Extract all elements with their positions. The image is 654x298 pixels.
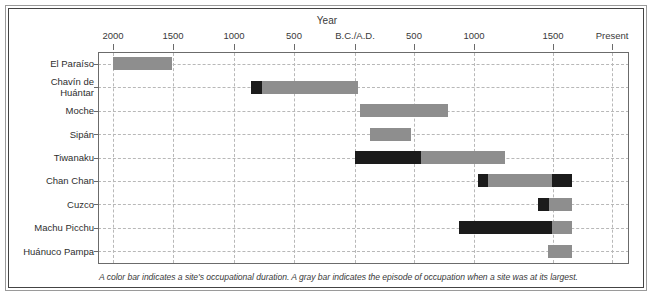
bar-segment	[549, 198, 572, 211]
x-tick-label-0: 2000	[102, 30, 123, 41]
gridline-horizontal-0	[98, 64, 629, 65]
bar-segment	[360, 104, 448, 117]
gridline-horizontal-3	[98, 134, 629, 135]
y-tick-mark-5	[94, 181, 99, 182]
bar-segment	[548, 245, 572, 258]
chart-title: Year	[0, 15, 654, 26]
bar-segment	[552, 221, 572, 234]
x-tick-mark-6	[474, 44, 475, 50]
category-label-text: Sipán	[2, 129, 94, 140]
y-tick-mark-8	[94, 251, 99, 252]
gridline-horizontal-1	[98, 87, 629, 88]
x-tick-mark-3	[294, 44, 295, 50]
category-label-text: El Paraíso	[2, 58, 94, 69]
bar-segment	[478, 174, 488, 187]
bar-segment	[251, 81, 262, 94]
x-tick-label-8: Present	[596, 30, 629, 41]
x-tick-mark-2	[234, 44, 235, 50]
x-tick-mark-7	[553, 44, 554, 50]
category-label-text: Tiwanaku	[2, 152, 94, 163]
category-label-text: Cuzco	[2, 199, 94, 210]
bar-segment	[262, 81, 358, 94]
axis-bottom	[98, 263, 629, 264]
bar-segment	[355, 151, 421, 164]
category-label-text: Chavín deHuántar	[2, 76, 94, 98]
y-tick-mark-7	[94, 228, 99, 229]
bar-segment	[538, 198, 549, 211]
y-tick-mark-6	[94, 204, 99, 205]
y-tick-mark-0	[94, 64, 99, 65]
x-tick-mark-8	[612, 44, 613, 50]
bar-segment	[113, 57, 172, 70]
x-tick-label-1: 1500	[162, 30, 183, 41]
bar-segment	[459, 221, 552, 234]
bar-segment	[421, 151, 505, 164]
y-tick-mark-2	[94, 111, 99, 112]
chart-footnote: A color bar indicates a site's occupatio…	[99, 272, 578, 282]
x-tick-label-6: 1000	[463, 30, 484, 41]
bar-segment	[552, 174, 572, 187]
plot-area: Year 200015001000500B.C./A.D.50010001500…	[0, 0, 654, 298]
category-label-text: Moche	[2, 105, 94, 116]
category-label-text: Machu Picchu	[2, 222, 94, 233]
x-tick-mark-1	[173, 44, 174, 50]
x-tick-label-5: 500	[406, 30, 422, 41]
y-tick-mark-1	[94, 87, 99, 88]
bar-segment	[370, 128, 411, 141]
y-tick-mark-3	[94, 134, 99, 135]
bar-segment	[488, 174, 552, 187]
category-label-text: Chan Chan	[2, 175, 94, 186]
category-label-text: Huánuco Pampa	[2, 246, 94, 257]
axis-top	[98, 52, 629, 53]
x-tick-label-3: 500	[286, 30, 302, 41]
x-tick-mark-0	[113, 44, 114, 50]
x-tick-mark-4	[355, 44, 356, 50]
y-tick-mark-4	[94, 158, 99, 159]
axis-right	[628, 52, 629, 264]
x-tick-mark-5	[414, 44, 415, 50]
timeline-figure: Year 200015001000500B.C./A.D.50010001500…	[0, 0, 654, 298]
x-tick-label-2: 1000	[223, 30, 244, 41]
x-tick-label-4: B.C./A.D.	[335, 30, 375, 41]
x-tick-label-7: 1500	[542, 30, 563, 41]
